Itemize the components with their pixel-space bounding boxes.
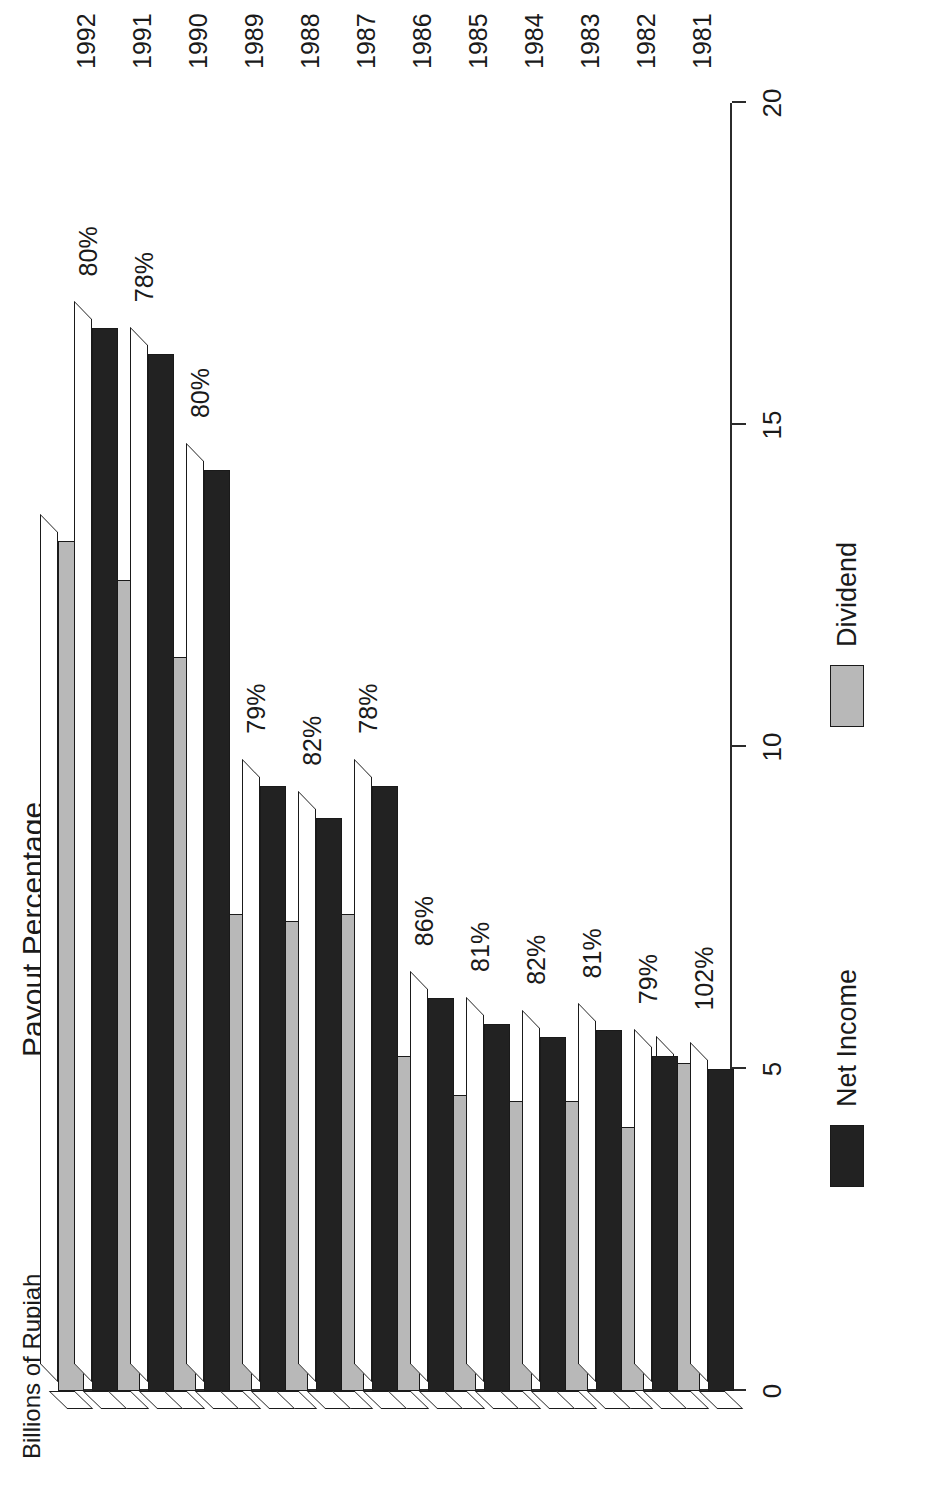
legend-label: Dividend	[832, 542, 863, 647]
year-label: 1988	[296, 13, 325, 69]
bar-net-income	[148, 354, 174, 1391]
bar-net-income	[92, 328, 118, 1391]
payout-percentage-label: 81%	[578, 928, 607, 978]
bar-top-face	[634, 1029, 652, 1383]
bar-top-face	[466, 997, 484, 1383]
payout-percentage-label: 82%	[298, 716, 327, 766]
bar-front-face	[372, 786, 398, 1391]
bar-front-face	[708, 1069, 734, 1391]
year-label: 1992	[72, 13, 101, 69]
bar-net-income	[372, 786, 398, 1391]
legend-label: Net Income	[832, 969, 863, 1107]
bar-front-face	[596, 1030, 622, 1391]
year-label: 1987	[352, 13, 381, 69]
year-label: 1983	[576, 13, 605, 69]
bar-net-income	[204, 470, 230, 1391]
axis-tick	[732, 423, 746, 425]
bar-net-income	[428, 998, 454, 1391]
axis-tick-label: 0	[757, 1384, 788, 1398]
bar-top-face	[40, 514, 58, 1383]
bar-top-face	[690, 1042, 708, 1383]
bar-net-income	[316, 818, 342, 1391]
bar-top-face	[578, 1003, 596, 1382]
legend-item-net-income[interactable]: Net Income	[830, 969, 864, 1187]
bar-top-face	[298, 791, 316, 1383]
year-label: 1989	[240, 13, 269, 69]
bar-front-face	[148, 354, 174, 1391]
bar-top-face	[410, 971, 428, 1382]
payout-percentage-label: 81%	[466, 922, 495, 972]
payout-percentage-label: 86%	[410, 896, 439, 946]
axis-tick-label: 20	[757, 89, 788, 118]
axis-tick-label: 5	[757, 1062, 788, 1076]
bar-top-face	[522, 1009, 540, 1382]
chart-figure: Billions of Rupiah Payout Percentage 051…	[0, 0, 933, 1487]
plot-area: 05101520 102%79%81%82%81%86%78%82%79%80%…	[60, 103, 732, 1391]
payout-percentage-label: 78%	[130, 252, 159, 302]
bar-top-face	[130, 327, 148, 1382]
axis-tick	[732, 1067, 746, 1069]
bar-net-income	[596, 1030, 622, 1391]
bar-front-face	[428, 998, 454, 1391]
payout-percentage-label: 79%	[634, 954, 663, 1004]
axis-tick-label: 15	[757, 411, 788, 440]
bar-front-face	[92, 328, 118, 1391]
bar-net-income	[540, 1037, 566, 1391]
year-label: 1990	[184, 13, 213, 69]
bar-net-income	[652, 1056, 678, 1391]
payout-percentage-label: 80%	[186, 368, 215, 418]
bar-top-face	[242, 758, 260, 1382]
bar-top-face	[354, 758, 372, 1382]
payout-percentage-label: 80%	[74, 226, 103, 276]
axis-tick	[732, 1389, 746, 1391]
year-label: 1984	[520, 13, 549, 69]
payout-percentage-label: 79%	[242, 684, 271, 734]
bar-net-income	[708, 1069, 734, 1391]
bar-front-face	[204, 470, 230, 1391]
bar-front-face	[652, 1056, 678, 1391]
payout-percentage-label: 102%	[690, 947, 719, 1011]
payout-percentage-label: 82%	[522, 935, 551, 985]
payout-percentage-label: 78%	[354, 684, 383, 734]
axis-tick	[732, 101, 746, 103]
bar-top-face	[186, 443, 204, 1383]
bar-front-face	[316, 818, 342, 1391]
axis-tick-label: 10	[757, 733, 788, 762]
bar-net-income	[484, 1024, 510, 1391]
bar-front-face	[484, 1024, 510, 1391]
bar-top-face	[74, 301, 92, 1382]
bar-front-face	[260, 786, 286, 1391]
year-label: 1981	[688, 13, 717, 69]
chart-legend: Net Income Dividend	[820, 0, 910, 1487]
year-label: 1991	[128, 13, 157, 69]
bar-front-face	[540, 1037, 566, 1391]
gray-swatch-icon	[830, 665, 864, 727]
year-label: 1982	[632, 13, 661, 69]
year-label: 1985	[464, 13, 493, 69]
axis-tick	[732, 745, 746, 747]
rotated-figure-wrapper: Billions of Rupiah Payout Percentage 051…	[0, 0, 933, 1487]
black-swatch-icon	[830, 1125, 864, 1187]
year-label: 1986	[408, 13, 437, 69]
legend-item-dividend[interactable]: Dividend	[830, 542, 864, 727]
bar-net-income	[260, 786, 286, 1391]
